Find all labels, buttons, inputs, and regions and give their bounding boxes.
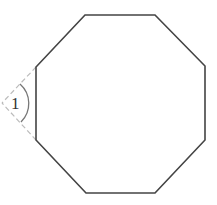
angle-arc (20, 84, 29, 122)
angle-label: 1 (11, 94, 20, 113)
octagon-diagram: 1 (0, 0, 217, 205)
octagon (36, 15, 205, 193)
